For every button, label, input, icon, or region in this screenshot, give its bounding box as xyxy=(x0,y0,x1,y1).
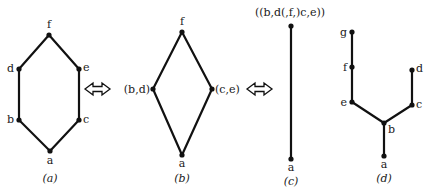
caption-a: (a) xyxy=(42,172,57,185)
label-d: d xyxy=(416,62,423,75)
caption-b: (b) xyxy=(174,172,190,185)
label-c: c xyxy=(83,113,89,126)
node-b xyxy=(381,120,386,125)
node-c xyxy=(409,102,414,107)
figure-c: ((b,d(,f,)c,e)) a (c) xyxy=(255,6,325,188)
node-bd xyxy=(150,86,155,91)
edge-d-f xyxy=(19,35,49,69)
node-e xyxy=(76,66,81,71)
node-a xyxy=(47,148,52,153)
label-c: c xyxy=(416,98,422,111)
label-b: b xyxy=(7,113,14,126)
label-top: ((b,d(,f,)c,e)) xyxy=(255,6,325,19)
label-a: a xyxy=(179,157,186,170)
caption-d: (d) xyxy=(376,172,392,185)
label-f: f xyxy=(343,61,348,74)
node-top xyxy=(288,23,293,28)
label-a: a xyxy=(381,158,388,171)
edge-a-c xyxy=(50,120,79,151)
node-f xyxy=(179,29,184,34)
figure-d: g f e b c d a (d) xyxy=(340,26,423,185)
edge-a-b xyxy=(19,120,50,151)
label-ce: (c,e) xyxy=(215,83,240,96)
node-d xyxy=(16,66,21,71)
node-b xyxy=(16,117,21,122)
node-g xyxy=(349,29,354,34)
label-e: e xyxy=(83,61,90,74)
edge-a-bd xyxy=(153,89,182,155)
node-d xyxy=(409,67,414,72)
double-arrow-icon xyxy=(85,83,110,95)
node-f xyxy=(349,64,354,69)
edge-a-ce xyxy=(182,89,212,155)
edge-bd-f xyxy=(153,32,182,89)
label-b: b xyxy=(388,123,395,136)
double-arrow-icon xyxy=(247,83,272,95)
edge-b-c xyxy=(384,105,412,123)
label-a: a xyxy=(47,154,54,167)
node-e xyxy=(349,99,354,104)
label-g: g xyxy=(340,26,347,39)
label-a: a xyxy=(288,161,295,174)
diagram-canvas: f d e b c a (a) f (b,d) (c,e) a (b) ((b,… xyxy=(0,0,430,189)
label-f: f xyxy=(180,15,185,28)
node-f xyxy=(46,32,51,37)
node-c xyxy=(76,117,81,122)
figure-a: f d e b c a (a) xyxy=(7,18,90,185)
edge-ce-f xyxy=(182,32,212,89)
caption-c: (c) xyxy=(284,175,299,188)
figure-b: f (b,d) (c,e) a (b) xyxy=(124,15,240,185)
node-ce xyxy=(209,86,214,91)
label-bd: (b,d) xyxy=(124,83,150,96)
label-f: f xyxy=(47,18,52,31)
label-d: d xyxy=(7,62,14,75)
label-e: e xyxy=(340,96,347,109)
edge-e-f xyxy=(49,35,79,69)
edge-b-e xyxy=(352,102,384,123)
